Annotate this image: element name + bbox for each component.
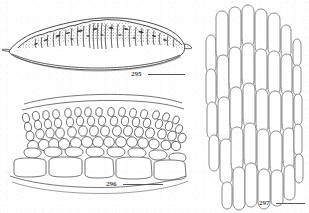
figure-number-295: 295 <box>131 70 142 78</box>
figure-number-296: 296 <box>106 180 117 188</box>
upper-surface-line-2 <box>22 100 184 110</box>
basal-cell-row <box>14 157 186 180</box>
cell-column-group <box>21 109 69 152</box>
ascoma-left-tip <box>2 49 10 52</box>
scale-bar-297 <box>276 203 305 204</box>
illustration-plate: 295 <box>0 0 309 213</box>
figure-number-297: 297 <box>259 199 270 207</box>
figure-296-hymenium-section <box>2 88 192 196</box>
scale-bar-296 <box>123 184 163 185</box>
figure-297-hyphal-cells <box>196 0 309 213</box>
hypha-column <box>293 39 303 183</box>
figure-295-ascoma-section <box>2 2 192 82</box>
scale-bar-295 <box>148 74 185 75</box>
cell-column-group <box>107 107 161 150</box>
upper-surface-line <box>24 94 182 104</box>
